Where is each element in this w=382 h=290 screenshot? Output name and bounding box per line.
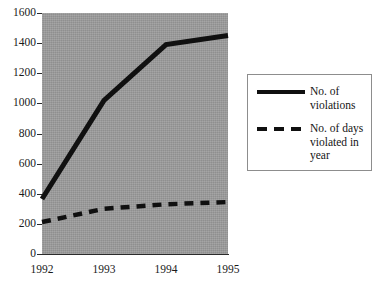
- y-axis-tick-label: 1400: [13, 37, 36, 49]
- y-axis-tick-label: 1600: [13, 7, 36, 19]
- y-axis-tick-labels: 02004006008001000120014001600: [0, 0, 36, 290]
- chart-figure: 02004006008001000120014001600 1992199319…: [0, 0, 382, 290]
- y-axis-tick-label: 400: [19, 188, 36, 200]
- plot-container: 02004006008001000120014001600 1992199319…: [0, 0, 240, 290]
- plot-area: [42, 13, 228, 254]
- y-axis-tick-label: 200: [19, 218, 36, 230]
- chart-legend: No. of violations No. of days violated i…: [247, 74, 372, 171]
- legend-label-days-violated: No. of days violated in year: [310, 122, 363, 163]
- y-axis-tick-label: 800: [19, 128, 36, 140]
- dashed-line-key-icon: [254, 122, 310, 136]
- y-axis-tick-label: 1000: [13, 97, 36, 109]
- y-axis-tick-label: 1200: [13, 67, 36, 79]
- x-axis-tick-label: 1995: [217, 264, 240, 276]
- y-axis-tick-label: 0: [30, 248, 36, 260]
- solid-line-key-icon: [254, 85, 310, 99]
- legend-label-violations: No. of violations: [310, 85, 355, 112]
- legend-entry-violations: No. of violations: [248, 85, 371, 112]
- x-axis-tick-label: 1994: [155, 264, 178, 276]
- legend-entry-days-violated: No. of days violated in year: [248, 122, 371, 163]
- x-axis-tick-label: 1993: [93, 264, 116, 276]
- series-line-violations: [42, 36, 228, 199]
- x-axis-tick-label: 1992: [31, 264, 54, 276]
- y-axis-tick-label: 600: [19, 158, 36, 170]
- series-lines: [42, 13, 228, 254]
- x-axis-line: [42, 254, 229, 255]
- series-line-days-violated: [42, 202, 228, 222]
